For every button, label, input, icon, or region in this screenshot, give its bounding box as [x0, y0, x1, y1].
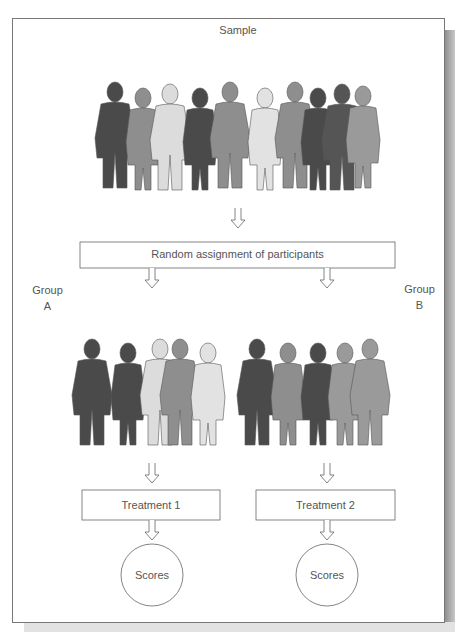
assignment-label: Random assignment of participants	[80, 248, 395, 260]
scores-label-a: Scores	[121, 569, 183, 581]
treatment-2-label: Treatment 2	[256, 499, 395, 511]
arrow-down-icon	[145, 463, 159, 483]
group-a-people	[72, 339, 225, 445]
group-a-label: Group	[25, 284, 70, 296]
diagram-graphics	[0, 0, 466, 639]
group-b-people	[237, 339, 390, 445]
arrow-down-icon	[145, 268, 159, 288]
arrow-down-icon	[320, 520, 334, 540]
arrow-down-icon	[320, 463, 334, 483]
treatment-1-label: Treatment 1	[82, 499, 220, 511]
arrow-down-icon	[231, 208, 245, 228]
group-b-letter: B	[397, 299, 442, 311]
sample-people	[95, 82, 380, 190]
scores-label-b: Scores	[296, 569, 358, 581]
group-a-letter: A	[25, 300, 70, 312]
sample-label: Sample	[200, 24, 276, 36]
arrow-down-icon	[320, 268, 334, 288]
group-b-label: Group	[397, 283, 442, 295]
arrow-down-icon	[145, 520, 159, 540]
